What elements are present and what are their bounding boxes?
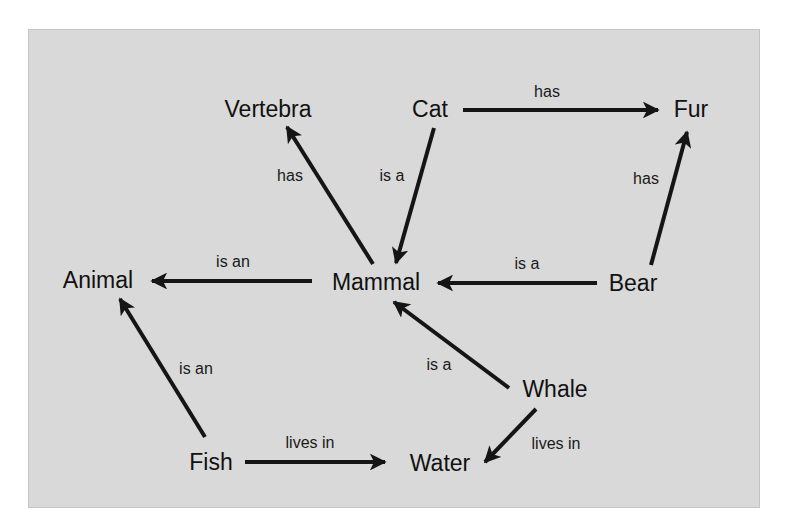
- node-whale[interactable]: Whale: [522, 376, 587, 402]
- node-fish[interactable]: Fish: [189, 449, 232, 475]
- edge-label: is a: [515, 255, 540, 272]
- node-fur[interactable]: Fur: [674, 96, 709, 122]
- edge-mammal-has-vertebra: [287, 127, 373, 264]
- edge-label: is a: [380, 167, 405, 184]
- node-mammal[interactable]: Mammal: [332, 269, 420, 295]
- edge-label: is an: [179, 360, 213, 377]
- node-water[interactable]: Water: [410, 450, 471, 476]
- edge-label: lives in: [286, 434, 335, 451]
- edge-bear-has-fur: [651, 132, 687, 265]
- edge-label: is a: [427, 356, 452, 373]
- edge-label: lives in: [532, 435, 581, 452]
- edge-label: is an: [216, 253, 250, 270]
- edge-label: has: [534, 83, 560, 100]
- edge-label: has: [277, 167, 303, 184]
- nodes: Vertebra Cat Fur Animal Mammal Bear Whal…: [63, 96, 709, 476]
- node-animal[interactable]: Animal: [63, 267, 133, 293]
- node-vertebra[interactable]: Vertebra: [225, 96, 312, 122]
- edge-whale-is-a-mammal: [394, 302, 509, 388]
- edge-label: has: [633, 170, 659, 187]
- edge-whale-lives-in-water: [485, 409, 536, 462]
- node-cat[interactable]: Cat: [412, 96, 448, 122]
- edge-cat-is-a-mammal: [396, 128, 434, 263]
- node-bear[interactable]: Bear: [609, 270, 658, 296]
- semantic-network-diagram: has has is a has is an is a is a is an l…: [0, 0, 787, 531]
